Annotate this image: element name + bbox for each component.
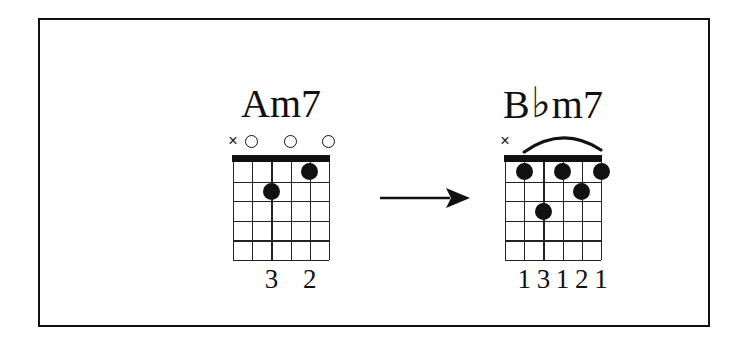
fret-dot-string-4-fret-3	[535, 203, 552, 220]
flat-symbol-icon: ♭	[530, 80, 552, 126]
open-marker-string-3	[284, 135, 297, 148]
open-marker-string-5	[245, 135, 258, 148]
nut-bar	[232, 155, 330, 162]
mute-marker-string-6: ×	[498, 134, 512, 148]
finger-numbers-bbm7: 13121	[458, 264, 648, 294]
open-marker-string-1	[322, 135, 335, 148]
fret-dot-string-5-fret-1	[516, 163, 533, 180]
chord-name-text: Am7	[241, 81, 321, 126]
string-markers-am7: ×	[186, 134, 376, 156]
string-markers-bbm7: ×	[458, 134, 648, 156]
string-line	[271, 162, 272, 260]
fretboard-grid-bbm7	[505, 162, 601, 260]
chord-diagram-am7: Am7 × 32	[186, 82, 376, 297]
fret-line	[233, 182, 329, 183]
fret-line	[233, 240, 329, 241]
fret-line	[233, 260, 329, 261]
figure-canvas: Am7 × 32 B♭m7 × 13121	[0, 0, 747, 346]
chord-name-root: B	[503, 82, 530, 127]
fret-line	[505, 221, 601, 222]
fretboard-grid-am7	[233, 162, 329, 260]
right-arrow-icon	[378, 183, 470, 213]
string-line	[233, 162, 234, 260]
fret-line	[505, 240, 601, 241]
fret-line	[505, 260, 601, 261]
fret-dot-string-1-fret-1	[593, 163, 610, 180]
chord-name-bbm7: B♭m7	[458, 82, 648, 127]
chord-name-am7: Am7	[186, 82, 376, 126]
string-line	[582, 162, 583, 260]
finger-number-string-2: 2	[299, 264, 321, 294]
finger-numbers-am7: 32	[186, 264, 376, 294]
fret-line	[505, 182, 601, 183]
fret-dot-string-2-fret-1	[301, 163, 318, 180]
chord-diagram-bbm7: B♭m7 × 13121	[458, 82, 648, 297]
figure-border-frame: Am7 × 32 B♭m7 × 13121	[38, 18, 710, 327]
fret-line	[233, 201, 329, 202]
finger-number-string-1: 1	[590, 264, 612, 294]
fret-line	[505, 201, 601, 202]
chord-name-quality: m7	[552, 82, 603, 127]
string-line	[291, 162, 292, 260]
fret-dot-string-4-fret-2	[263, 183, 280, 200]
finger-number-string-4: 3	[260, 264, 282, 294]
string-line	[505, 162, 506, 260]
fret-dot-string-2-fret-2	[573, 183, 590, 200]
string-line	[329, 162, 330, 260]
string-line	[252, 162, 253, 260]
mute-marker-string-6: ×	[226, 134, 240, 148]
fret-line	[233, 221, 329, 222]
fret-dot-string-3-fret-1	[554, 163, 571, 180]
nut-bar	[504, 155, 602, 162]
